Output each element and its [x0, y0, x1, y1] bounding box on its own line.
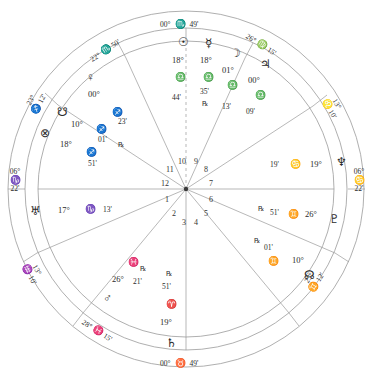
mars-retrograde: ℞: [140, 266, 146, 273]
fortune-degree: 18°: [60, 140, 72, 149]
wheel-graphics: [0, 0, 373, 377]
chart-center-dot: [184, 187, 188, 191]
mars-degree: 26°: [112, 275, 124, 284]
sun-glyph: ☉: [178, 36, 189, 48]
fortune-sign-glyph: ♐: [86, 148, 97, 157]
asc-minute: 22': [4, 185, 26, 193]
uranus-glyph: ♅: [30, 205, 41, 217]
pluto-sign-glyph: ♊: [288, 210, 299, 219]
jupiter-degree: 00°: [248, 76, 260, 85]
fortune-minute: 51': [88, 160, 97, 168]
neptune-sign-glyph: ♋: [290, 160, 301, 169]
jupiter-sign-glyph: ♎: [255, 91, 266, 100]
uranus-degree: 17°: [58, 206, 70, 215]
house-number-8: 8: [204, 166, 208, 174]
south-node-retrograde: ℞: [118, 142, 124, 149]
south-node-minute: 01': [98, 136, 107, 144]
north-node-glyph: ☊: [304, 269, 315, 281]
pluto-glyph: ♇: [329, 213, 340, 225]
pluto-retrograde: ℞: [258, 206, 264, 213]
mars-minute: 21': [133, 278, 142, 286]
north-node-sign-glyph: ♊: [268, 257, 279, 266]
venus-minute: 23': [118, 118, 127, 126]
mercury-minute: 35': [200, 88, 209, 96]
moon-minute: 13': [222, 103, 231, 111]
uranus-sign-glyph: ♑: [85, 205, 96, 214]
house-number-2: 2: [172, 210, 176, 218]
neptune-glyph: ♆: [336, 156, 347, 168]
sun-sign-glyph: ♎: [175, 73, 186, 82]
house-number-7: 7: [209, 180, 213, 188]
saturn-minute: 51': [162, 283, 171, 291]
saturn-degree: 19°: [160, 318, 172, 327]
south-node-glyph: ☋: [57, 106, 68, 118]
mercury-retrograde: ℞: [202, 101, 208, 108]
south-node-sign-glyph: ♐: [96, 125, 107, 134]
house-number-3: 3: [182, 219, 186, 227]
jupiter-minute: 09': [246, 108, 255, 116]
house-number-1: 1: [165, 196, 169, 204]
mc-label: 00° ♏ 49': [160, 14, 198, 30]
house-number-5: 5: [204, 210, 208, 218]
house-number-10: 10: [178, 158, 186, 166]
moon-sign-glyph: ♎: [227, 81, 238, 90]
ic-minute: 49': [190, 359, 199, 368]
mercury-degree: 18°: [200, 56, 212, 65]
sun-degree: 18°: [172, 56, 184, 65]
pluto-minute: 51': [270, 209, 279, 217]
house-number-6: 6: [209, 196, 213, 204]
north-node-retrograde: ℞: [254, 238, 260, 245]
neptune-minute: 19': [270, 161, 279, 169]
house-number-11: 11: [166, 166, 174, 174]
venus-sign-glyph: ♐: [112, 108, 123, 117]
venus-degree: 00°: [88, 90, 100, 99]
south-node-degree: 10°: [71, 120, 83, 129]
asc-label: 06° ♑ 22': [4, 168, 26, 192]
north-node-minute: 01': [264, 244, 273, 252]
mercury-glyph: ☿: [205, 37, 212, 49]
ic-label: 00° ♉ 49': [160, 353, 198, 369]
sun-minute: 44': [172, 94, 181, 102]
house-number-9: 9: [194, 158, 198, 166]
natal-chart-wheel: 00° ♏ 49' 00° ♉ 49' 06° ♑ 22' 06° ♋ 22' …: [0, 0, 373, 377]
dsc-label: 06° ♋ 22': [348, 168, 370, 192]
dsc-minute: 22': [348, 185, 370, 193]
moon-glyph: ☽: [230, 47, 241, 59]
uranus-minute: 13': [103, 206, 112, 214]
saturn-glyph: ♄: [166, 337, 177, 349]
ic-sign-glyph: ♉: [175, 358, 186, 368]
mars-glyph: ♂: [103, 292, 112, 304]
fortune-glyph: ⊗: [40, 127, 50, 139]
saturn-retrograde: ℞: [166, 271, 172, 278]
jupiter-glyph: ♃: [260, 58, 271, 70]
saturn-sign-glyph: ♈: [166, 300, 177, 309]
neptune-degree: 19°: [310, 160, 322, 169]
house-number-12: 12: [161, 180, 169, 188]
moon-degree: 01°: [222, 66, 234, 75]
pluto-degree: 26°: [305, 210, 317, 219]
venus-glyph: ♀: [86, 71, 95, 83]
mars-sign-glyph: ♓: [128, 258, 139, 267]
house-number-4: 4: [194, 219, 198, 227]
ic-degree: 00°: [160, 359, 171, 368]
mc-minute: 49': [190, 20, 199, 29]
mc-sign-glyph: ♏: [175, 19, 186, 29]
mc-degree: 00°: [160, 20, 171, 29]
mercury-sign-glyph: ♎: [203, 73, 214, 82]
north-node-degree: 10°: [292, 256, 304, 265]
